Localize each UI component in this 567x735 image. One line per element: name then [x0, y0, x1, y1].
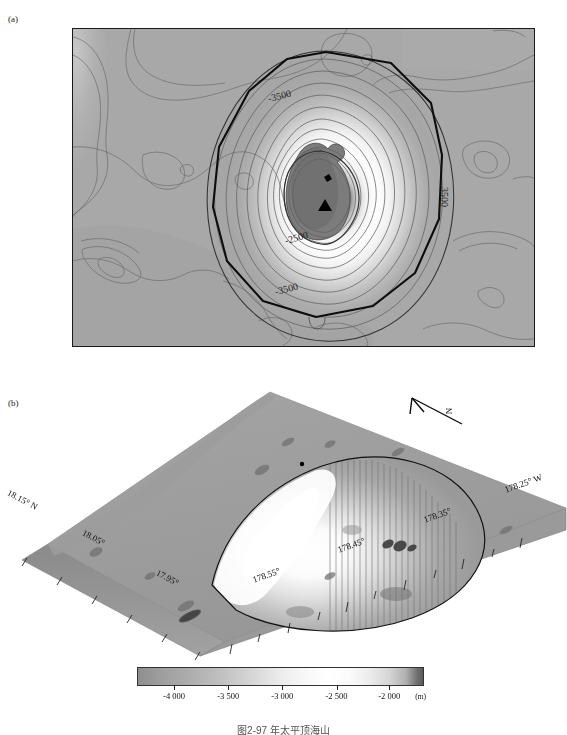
y-major-tick	[534, 158, 535, 159]
contour-label-3500-e: 3500	[439, 187, 450, 207]
x-minor-tick	[211, 28, 212, 29]
x-minor-tick	[234, 346, 235, 347]
x-minor-tick	[257, 346, 258, 347]
bathymetry-contour-plot: -3500 3500 -2500 -3500	[73, 29, 534, 346]
figure-root: (a)	[0, 0, 567, 735]
y-major-tick	[534, 36, 535, 37]
x-major-tick	[291, 28, 292, 29]
y-minor-tick	[534, 175, 535, 176]
y-minor-tick	[72, 127, 73, 128]
x-minor-tick	[188, 346, 189, 347]
x-minor-tick	[304, 346, 305, 347]
x-minor-tick	[119, 346, 120, 347]
seamount-3d-surface	[0, 380, 567, 660]
colorbar-tick	[337, 685, 338, 690]
x-minor-tick	[142, 28, 143, 29]
y-minor-tick	[534, 200, 535, 201]
y-minor-tick	[534, 78, 535, 79]
y-minor-tick	[534, 127, 535, 128]
x-minor-tick	[465, 28, 466, 29]
x-minor-tick	[419, 28, 420, 29]
x-minor-tick	[327, 28, 328, 29]
colorbar-tick-label: -2 000	[378, 691, 400, 701]
x-major-tick	[180, 28, 181, 29]
x-minor-tick	[119, 28, 120, 29]
x-minor-tick	[350, 346, 351, 347]
depth-colorbar	[137, 667, 424, 686]
colorbar-tick	[228, 685, 229, 690]
y-minor-tick	[72, 322, 73, 323]
x-minor-tick	[165, 28, 166, 29]
x-major-tick	[512, 346, 513, 347]
x-minor-tick	[280, 346, 281, 347]
figure-caption: 图2-97 年太平顶海山	[0, 722, 567, 735]
x-minor-tick	[304, 28, 305, 29]
x-minor-tick	[442, 28, 443, 29]
x-minor-tick	[165, 346, 166, 347]
colorbar-tick	[282, 685, 283, 690]
x-minor-tick	[373, 28, 374, 29]
y-major-tick	[72, 281, 73, 282]
y-major-tick	[72, 36, 73, 37]
y-minor-tick	[72, 248, 73, 249]
y-minor-tick	[534, 151, 535, 152]
colorbar-unit-label: (m)	[415, 692, 426, 701]
x-minor-tick	[488, 346, 489, 347]
y-minor-tick	[72, 200, 73, 201]
y-minor-tick	[534, 322, 535, 323]
panel-a-label: (a)	[8, 14, 18, 24]
y-minor-tick	[72, 297, 73, 298]
depth-colorbar-group: -4 000-3 500-3 000-2 500-2 000 (m)	[0, 660, 567, 708]
y-minor-tick	[72, 273, 73, 274]
x-minor-tick	[327, 346, 328, 347]
x-minor-tick	[419, 346, 420, 347]
x-major-tick	[291, 346, 292, 347]
x-minor-tick	[488, 28, 489, 29]
y-minor-tick	[534, 102, 535, 103]
x-minor-tick	[280, 28, 281, 29]
x-minor-tick	[211, 346, 212, 347]
x-minor-tick	[350, 28, 351, 29]
x-major-tick	[180, 346, 181, 347]
y-minor-tick	[72, 175, 73, 176]
y-minor-tick	[72, 78, 73, 79]
x-major-tick	[512, 28, 513, 29]
y-major-tick	[72, 158, 73, 159]
colorbar-tick	[174, 685, 175, 690]
y-major-tick	[534, 281, 535, 282]
x-minor-tick	[96, 28, 97, 29]
colorbar-tick	[389, 685, 390, 690]
x-minor-tick	[511, 346, 512, 347]
colorbar-tick-label: -2 500	[326, 691, 348, 701]
y-minor-tick	[534, 248, 535, 249]
x-minor-tick	[96, 346, 97, 347]
x-minor-tick	[373, 346, 374, 347]
perspective-3d-panel: 18.15° N 18.05° 17.95° 178.55° 178.45° 1…	[0, 380, 567, 660]
x-major-tick	[403, 28, 404, 29]
x-minor-tick	[142, 346, 143, 347]
y-minor-tick	[72, 53, 73, 54]
colorbar-tick-label: -3 500	[217, 691, 239, 701]
colorbar-tick-label: -4 000	[163, 691, 185, 701]
y-minor-tick	[534, 273, 535, 274]
y-minor-tick	[534, 297, 535, 298]
y-minor-tick	[72, 151, 73, 152]
x-minor-tick	[465, 346, 466, 347]
x-minor-tick	[257, 28, 258, 29]
north-arrow-label: N	[444, 408, 454, 415]
summit-sample-dot-3d	[300, 462, 304, 466]
x-minor-tick	[188, 28, 189, 29]
x-minor-tick	[442, 346, 443, 347]
y-minor-tick	[72, 224, 73, 225]
x-major-tick	[403, 346, 404, 347]
x-minor-tick	[396, 28, 397, 29]
colorbar-tick-label: -3 000	[271, 691, 293, 701]
y-minor-tick	[534, 224, 535, 225]
y-minor-tick	[72, 102, 73, 103]
x-minor-tick	[396, 346, 397, 347]
contour-map-panel: -3500 3500 -2500 -3500 178.55°178.45°178…	[72, 28, 535, 347]
x-minor-tick	[234, 28, 235, 29]
y-minor-tick	[534, 53, 535, 54]
